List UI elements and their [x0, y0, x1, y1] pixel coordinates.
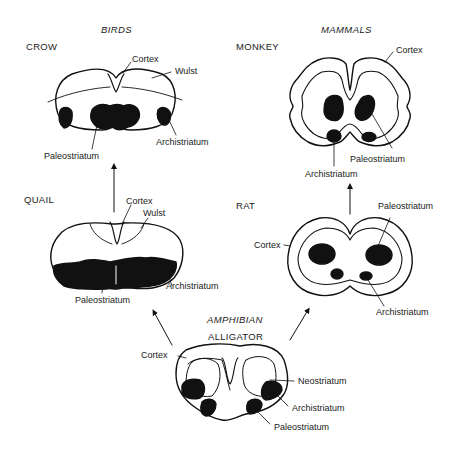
alligator-label-cortex: Cortex [141, 351, 168, 360]
monkey-label-paleostriatum: Paleostriatum [350, 155, 405, 164]
species-label-quail: QUAIL [24, 195, 54, 205]
monkey-outline [290, 58, 411, 146]
crow-wulst-pointer [152, 72, 171, 78]
alligator-paleostriatum-pointer [256, 410, 270, 424]
quail-cortex-pointer [122, 205, 131, 224]
diagram-canvas [0, 0, 456, 456]
rat-paleostriatum-right [366, 245, 392, 265]
quail-midline-groove [110, 222, 124, 244]
quail-label-wulst: Wulst [143, 209, 165, 218]
rat-brain [288, 218, 413, 296]
alligator-label-neostriatum: Neostriatum [298, 377, 347, 386]
monkey-label-archistriatum: Archistriatum [305, 170, 358, 179]
crow-label-wulst: Wulst [175, 67, 197, 76]
crow-cortex-pointer [123, 62, 131, 73]
crow-label-cortex: Cortex [132, 55, 159, 64]
quail-brain [51, 222, 183, 289]
quail-paleostriatum [53, 257, 176, 289]
quail-label-paleostriatum: Paleostriatum [75, 296, 130, 305]
monkey-inner-cortex [302, 71, 399, 138]
species-label-rat: RAT [236, 201, 255, 211]
quail-wulst [90, 224, 144, 244]
crow-archistriatum-left [59, 107, 72, 128]
rat-label-paleostriatum: Paleostriatum [378, 202, 433, 211]
crow-label-paleostriatum: Paleostriatum [44, 152, 99, 161]
rat-label-cortex: Cortex [254, 241, 281, 250]
crow-brain [48, 69, 182, 130]
crow-archistriatum-right [157, 108, 170, 126]
species-label-monkey: MONKEY [236, 42, 279, 52]
crow-label-archistriatum: Archistriatum [156, 138, 209, 147]
group-label-amphibian: AMPHIBIAN [207, 315, 263, 325]
arrow-alligator-to-quail [154, 312, 172, 345]
alligator-paleostriatum-left [201, 399, 216, 416]
alligator-archistriatum-pointer [278, 396, 288, 406]
group-label-mammals: MAMMALS [321, 25, 372, 35]
group-label-birds: BIRDS [101, 25, 132, 35]
monkey-label-cortex: Cortex [396, 46, 423, 55]
rat-archistriatum-right [360, 272, 372, 280]
species-label-crow: CROW [26, 42, 57, 52]
monkey-paleostriatum-right [355, 96, 374, 121]
quail-label-archistriatum: Archistriatum [166, 282, 219, 291]
alligator-archistriatum-left [182, 379, 205, 399]
arrow-alligator-to-rat [290, 310, 308, 340]
monkey-cortex-pointer [385, 52, 393, 62]
alligator-midline-groove [222, 358, 238, 384]
crow-midline-groove [108, 74, 124, 92]
crow-paleostriatum [91, 104, 140, 129]
species-label-alligator: ALLIGATOR [208, 332, 263, 342]
monkey-archistriatum-right [362, 133, 376, 142]
monkey-brain [290, 58, 411, 146]
rat-paleostriatum-pointer [378, 218, 390, 246]
alligator-brain [176, 344, 288, 420]
monkey-archistriatum-left [327, 130, 341, 142]
alligator-label-paleostriatum: Paleostriatum [274, 423, 329, 432]
crow-archistriatum-pointer [170, 122, 176, 135]
rat-cortex-pointer [284, 245, 290, 246]
alligator-label-archistriatum: Archistriatum [292, 404, 345, 413]
rat-archistriatum-left [331, 269, 343, 279]
quail-label-cortex: Cortex [126, 197, 153, 206]
monkey-paleostriatum-left [324, 96, 343, 121]
rat-label-archistriatum: Archistriatum [376, 308, 429, 317]
rat-outline [288, 218, 413, 296]
rat-paleostriatum-left [309, 244, 335, 264]
